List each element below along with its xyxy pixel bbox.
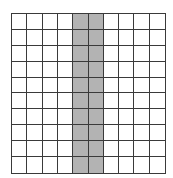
grid-cell	[150, 78, 165, 94]
grid-cell	[43, 14, 58, 30]
grid-cell	[43, 93, 58, 109]
grid-cell	[104, 157, 119, 173]
grid-cell	[119, 157, 134, 173]
grid-cell	[150, 109, 165, 125]
grid-cell	[119, 125, 134, 141]
shaded-cell	[89, 78, 104, 94]
grid-cell	[58, 125, 73, 141]
shaded-cell	[89, 62, 104, 78]
grid-cell	[58, 14, 73, 30]
grid-cell	[58, 109, 73, 125]
grid-cell	[150, 46, 165, 62]
grid-cell	[150, 14, 165, 30]
grid-cell	[134, 62, 149, 78]
shaded-cell	[89, 125, 104, 141]
grid-cell	[12, 62, 27, 78]
shaded-cell	[89, 30, 104, 46]
grid-cell	[12, 14, 27, 30]
grid-cell	[150, 125, 165, 141]
grid-cell	[119, 62, 134, 78]
grid-cell	[104, 109, 119, 125]
grid-cell	[43, 30, 58, 46]
shaded-cell	[73, 30, 88, 46]
grid-cell	[134, 157, 149, 173]
grid-cell	[43, 109, 58, 125]
grid-cell	[58, 62, 73, 78]
grid-cell	[12, 141, 27, 157]
grid-cell	[119, 78, 134, 94]
grid-cell	[104, 30, 119, 46]
shaded-cell	[73, 78, 88, 94]
grid-cell	[43, 157, 58, 173]
grid-cell	[134, 78, 149, 94]
grid-cell	[104, 93, 119, 109]
grid-cell	[119, 46, 134, 62]
grid-cell	[12, 157, 27, 173]
grid-cell	[27, 62, 42, 78]
grid-cell	[58, 30, 73, 46]
grid-cell	[27, 141, 42, 157]
grid-cell	[119, 109, 134, 125]
shaded-cell	[73, 93, 88, 109]
grid-cell	[58, 46, 73, 62]
grid-cell	[150, 93, 165, 109]
grid-cell	[58, 93, 73, 109]
grid-cell	[58, 157, 73, 173]
grid-cell	[12, 78, 27, 94]
grid-cell	[43, 62, 58, 78]
grid-cell	[27, 109, 42, 125]
shaded-cell	[89, 141, 104, 157]
grid-cell	[12, 109, 27, 125]
grid-cell	[27, 93, 42, 109]
shaded-cell	[89, 109, 104, 125]
shaded-cell	[73, 46, 88, 62]
grid-cell	[104, 46, 119, 62]
grid-cell	[119, 14, 134, 30]
grid-cell	[43, 141, 58, 157]
grid-cell	[27, 125, 42, 141]
shaded-cell	[73, 62, 88, 78]
grid-cell	[134, 141, 149, 157]
grid-cell	[43, 125, 58, 141]
grid-cell	[12, 30, 27, 46]
grid-cell	[119, 93, 134, 109]
grid-cell	[104, 78, 119, 94]
shaded-cell	[73, 157, 88, 173]
grid-cell	[119, 141, 134, 157]
grid-cell	[134, 46, 149, 62]
grid-cell	[43, 78, 58, 94]
shaded-cell	[73, 109, 88, 125]
grid-cell	[134, 125, 149, 141]
grid-cell	[27, 157, 42, 173]
grid-cell	[104, 125, 119, 141]
shaded-cell	[89, 14, 104, 30]
grid-cell	[150, 62, 165, 78]
hundred-grid	[11, 13, 166, 174]
grid-cell	[134, 109, 149, 125]
shaded-cell	[89, 93, 104, 109]
grid-cell	[12, 46, 27, 62]
grid-cell	[134, 30, 149, 46]
grid-cell	[150, 157, 165, 173]
grid-cell	[27, 14, 42, 30]
grid-cell	[150, 141, 165, 157]
shaded-cell	[73, 125, 88, 141]
grid-cell	[119, 30, 134, 46]
shaded-cell	[73, 141, 88, 157]
shaded-cell	[73, 14, 88, 30]
grid-cell	[104, 62, 119, 78]
grid-cell	[12, 125, 27, 141]
grid-cell	[104, 14, 119, 30]
grid-cell	[27, 46, 42, 62]
grid-cell	[104, 141, 119, 157]
grid-cell	[27, 78, 42, 94]
grid-cell	[58, 141, 73, 157]
grid-cell	[12, 93, 27, 109]
grid-cell	[27, 30, 42, 46]
grid-cell	[43, 46, 58, 62]
grid-cell	[134, 14, 149, 30]
grid-cell	[134, 93, 149, 109]
grid-cell	[58, 78, 73, 94]
grid-cell	[150, 30, 165, 46]
shaded-cell	[89, 157, 104, 173]
